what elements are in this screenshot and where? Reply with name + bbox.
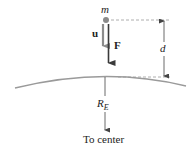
- center-label: To center: [83, 134, 124, 145]
- gravity-diagram: m u F d RE To center: [0, 0, 194, 156]
- distance-label: d: [160, 43, 166, 54]
- force-label: F: [114, 40, 121, 51]
- radius-label-main: R: [97, 97, 104, 109]
- earth-surface-arc: [15, 76, 186, 88]
- velocity-label: u: [92, 28, 98, 39]
- radius-label-subscript: E: [104, 103, 109, 112]
- radius-label: RE: [97, 98, 109, 112]
- mass-dot: [103, 17, 109, 23]
- mass-label: m: [101, 4, 109, 15]
